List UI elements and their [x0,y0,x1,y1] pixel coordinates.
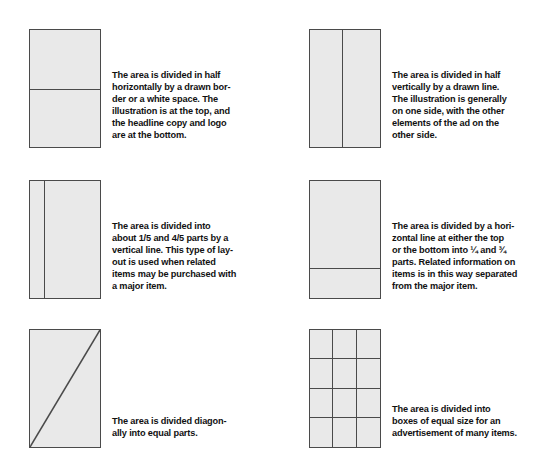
grid-box [310,330,333,359]
caption-divided-in-half-horizontally: The area is divided in half horizontally… [112,70,272,141]
figure-divided-in-half-horizontally [29,29,101,148]
layout-example-divided-one-fifth-four-fifths: The area is divided into about 1/5 and 4… [0,161,280,311]
layout-examples-grid: The area is divided in half horizontally… [0,0,560,461]
grid-box [357,330,380,359]
grid-box [357,359,380,388]
figure-divided-diagonally [29,329,101,448]
divider-horizontal-line [310,268,380,269]
grid-box [333,389,356,418]
grid-box [310,389,333,418]
grid-box [310,418,333,447]
caption-divided-one-fifth-four-fifths: The area is divided into about 1/5 and 4… [112,221,272,292]
divider-box-grid [310,330,380,447]
divider-vertical-line [44,181,45,298]
divider-horizontal-line [30,89,100,90]
caption-divided-quarter-three-quarters: The area is divided by a hori- zontal li… [392,221,552,292]
layout-example-divided-in-half-horizontally: The area is divided in half horizontally… [0,0,280,161]
caption-divided-into-equal-boxes: The area is divided into boxes of equal … [392,404,552,440]
grid-box [333,330,356,359]
figure-divided-quarter-three-quarters [309,180,381,299]
layout-example-divided-quarter-three-quarters: The area is divided by a hori- zontal li… [280,161,560,311]
figure-divided-in-half-vertically [309,29,381,148]
figure-divided-into-equal-boxes [309,329,381,448]
layout-example-divided-diagonally: The area is divided diagon- ally into eq… [0,311,280,461]
grid-box [357,389,380,418]
grid-box [357,418,380,447]
caption-divided-diagonally: The area is divided diagon- ally into eq… [112,416,272,440]
caption-divided-in-half-vertically: The area is divided in half vertically b… [392,70,552,141]
figure-divided-one-fifth-four-fifths [29,180,101,299]
divider-diagonal-line [30,330,100,447]
grid-box [310,359,333,388]
divider-vertical-line [342,30,343,147]
layout-example-divided-into-equal-boxes: The area is divided into boxes of equal … [280,311,560,461]
layout-example-divided-in-half-vertically: The area is divided in half vertically b… [280,0,560,161]
grid-box [333,359,356,388]
grid-box [333,418,356,447]
